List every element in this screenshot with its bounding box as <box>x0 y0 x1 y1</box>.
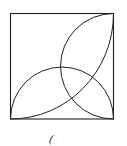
arc-diagonal <box>11 14 114 120</box>
semicircle-right <box>61 14 114 120</box>
square <box>11 14 114 120</box>
geometry-figure <box>0 0 127 146</box>
semicircle-bottom <box>11 67 114 119</box>
